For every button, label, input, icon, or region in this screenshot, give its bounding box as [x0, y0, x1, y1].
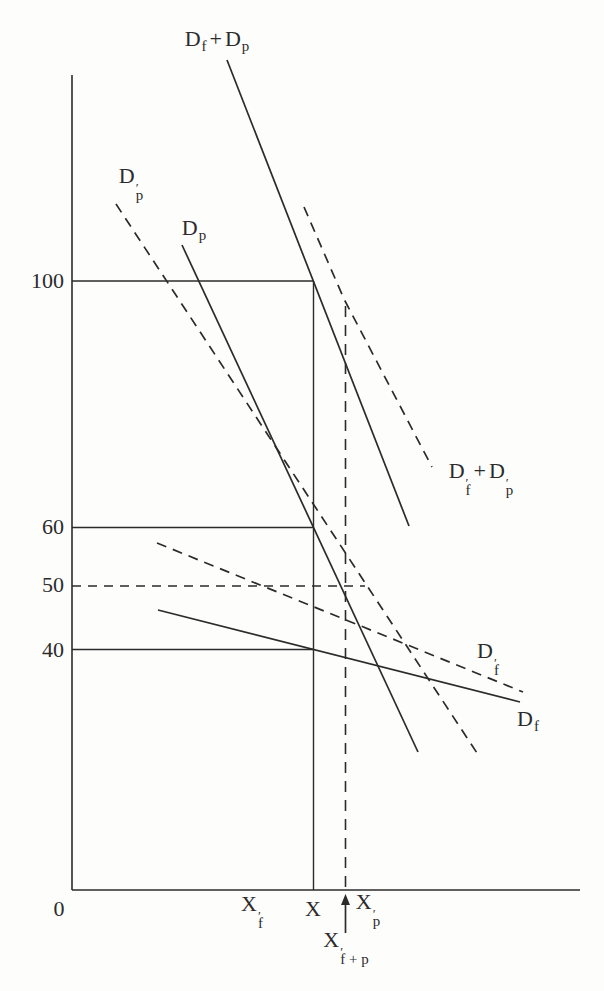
x-tick-xfp-prime: X′f + p — [323, 929, 368, 964]
xfp-arrow-head-icon — [341, 894, 350, 905]
diagram-canvas — [0, 0, 604, 991]
x-tick-xf-prime: X′f — [241, 893, 263, 928]
y-tick-100: 100 — [18, 270, 64, 292]
curve-df — [158, 610, 520, 702]
curve-label-dp: Dp — [182, 217, 206, 239]
curve-label-df: Df — [517, 708, 539, 730]
curve-dp-prime — [116, 204, 477, 753]
y-tick-40: 40 — [18, 639, 64, 661]
y-tick-60: 60 — [18, 516, 64, 538]
curve-df-prime — [157, 543, 523, 692]
x-tick-xp-prime: X′p — [356, 891, 380, 926]
y-tick-50: 50 — [18, 574, 64, 596]
curve-df-plus-dp — [227, 60, 409, 526]
economics-demand-diagram: Df+Dp D′p Dp D′f+D′p D′f Df 100 60 50 40… — [0, 0, 604, 991]
curve-label-df-plus-dp: Df+Dp — [185, 28, 250, 50]
curve-dp — [182, 245, 418, 752]
curve-label-dp-prime: D′p — [119, 165, 143, 200]
curve-label-df-prime: D′f — [477, 640, 499, 675]
curve-label-dfp-plus-dpp: D′f+D′p — [449, 460, 514, 495]
x-tick-x: X — [305, 898, 321, 920]
curve-dfp-plus-dpp — [304, 207, 432, 467]
x-tick-origin: 0 — [54, 898, 65, 920]
